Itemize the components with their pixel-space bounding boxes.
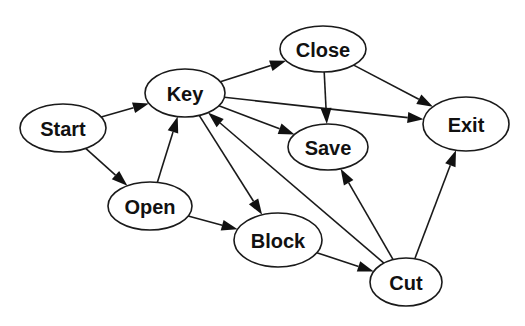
edge-close-to-exit	[354, 65, 433, 107]
node-close: Close	[280, 26, 366, 72]
node-key: Key	[145, 69, 225, 117]
arrowhead-icon	[249, 198, 262, 214]
arrowhead-icon	[221, 220, 238, 231]
edge-key-to-close	[220, 60, 286, 81]
arrowhead-icon	[168, 117, 179, 134]
edge-cut-to-exit	[415, 150, 456, 258]
node-label: Exit	[448, 114, 485, 136]
node-save: Save	[288, 124, 368, 170]
arrowhead-icon	[132, 103, 149, 114]
arrowhead-icon	[341, 169, 354, 186]
arrowhead-icon	[407, 112, 424, 123]
edge-line	[86, 148, 116, 175]
edge-line	[224, 97, 407, 117]
edge-open-to-block	[188, 216, 238, 230]
edge-cut-to-save	[341, 169, 394, 260]
node-exit: Exit	[423, 97, 509, 151]
edge-line	[219, 106, 280, 129]
edge-line	[188, 216, 222, 225]
arrowhead-icon	[278, 124, 295, 135]
edge-line	[349, 183, 394, 260]
node-label: Save	[305, 137, 352, 159]
node-label: Close	[296, 39, 350, 61]
edge-line	[415, 165, 451, 259]
edge-line	[324, 72, 326, 108]
edge-line	[101, 108, 133, 117]
arrowhead-icon	[357, 261, 374, 271]
node-block: Block	[234, 213, 322, 267]
arrowhead-icon	[269, 60, 286, 71]
edge-close-to-save	[321, 72, 332, 124]
edge-line	[354, 65, 419, 99]
edge-line	[157, 132, 173, 183]
edge-block-to-cut	[317, 253, 374, 272]
edge-line	[317, 253, 359, 267]
node-label: Start	[40, 118, 86, 140]
edge-open-to-key	[157, 117, 178, 183]
node-label: Key	[167, 83, 205, 105]
node-start: Start	[20, 104, 106, 152]
node-label: Block	[251, 230, 306, 252]
edge-start-to-key	[101, 103, 149, 118]
edge-start-to-open	[86, 148, 128, 185]
edge-key-to-save	[219, 106, 295, 135]
arrowhead-icon	[416, 94, 433, 106]
node-open: Open	[108, 182, 192, 230]
arrowhead-icon	[321, 108, 332, 124]
state-graph-diagram: StartKeyCloseSaveExitOpenBlockCut	[0, 0, 525, 326]
node-label: Cut	[389, 272, 423, 294]
node-cut: Cut	[370, 258, 442, 306]
node-label: Open	[124, 196, 175, 218]
edge-key-to-block	[199, 115, 262, 214]
edge-line	[220, 66, 270, 82]
arrowhead-icon	[445, 150, 456, 167]
